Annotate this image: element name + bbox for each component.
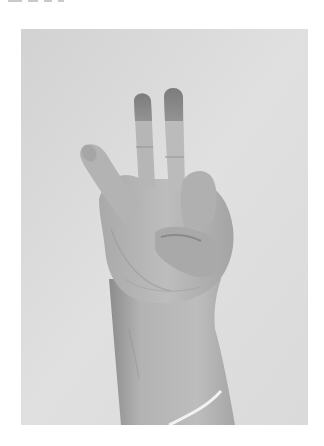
cropped-text-artifact	[8, 0, 98, 4]
folded-ring-finger	[181, 171, 217, 229]
index-fingertip	[134, 94, 152, 122]
hand-gesture-photo	[21, 29, 308, 425]
page	[0, 0, 324, 446]
middle-fingertip	[164, 88, 183, 121]
hand-illustration	[21, 29, 308, 425]
